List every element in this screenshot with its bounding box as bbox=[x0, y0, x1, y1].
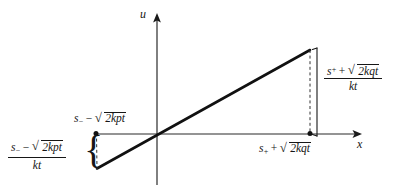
left-point-radical: √2kpt bbox=[95, 112, 126, 125]
left-fraction-radicand: 2kpt bbox=[41, 140, 63, 153]
left-point-expression: s−−√2kpt bbox=[74, 112, 126, 126]
right-fraction-label: s++√2kqt kt bbox=[324, 64, 382, 93]
left-point-label: s−−√2kpt bbox=[74, 110, 126, 126]
left-point-s-subscript: − bbox=[79, 117, 84, 126]
right-point-radical: √2kqt bbox=[280, 142, 311, 155]
right-fraction-numerator: s++√2kqt bbox=[324, 64, 382, 79]
graph-figure: u x { s−−√2kpt s−−√2kpt kt s++√2kqt s++√… bbox=[0, 0, 409, 191]
left-fraction: s−−√2kpt kt bbox=[8, 140, 66, 171]
right-measure-bracket bbox=[313, 48, 318, 136]
radical-sign-icon: √ bbox=[95, 111, 102, 124]
right-fraction-radicand: 2kqt bbox=[357, 64, 379, 77]
radical-sign-icon: √ bbox=[280, 141, 287, 154]
left-fraction-radical: √2kpt bbox=[32, 140, 63, 153]
right-point-marker bbox=[308, 131, 313, 136]
y-axis bbox=[153, 13, 161, 185]
left-point-operator: − bbox=[86, 112, 93, 124]
x-axis-label: x bbox=[357, 138, 362, 150]
y-axis-label: u bbox=[140, 8, 146, 20]
right-point-s: s bbox=[259, 142, 263, 154]
radical-sign-icon: √ bbox=[32, 139, 39, 152]
left-fraction-s: s bbox=[11, 141, 15, 153]
x-axis bbox=[96, 130, 362, 138]
left-fraction-operator: − bbox=[23, 141, 30, 153]
left-fraction-s-subscript: − bbox=[16, 146, 21, 155]
right-fraction-denominator: kt bbox=[324, 79, 382, 92]
right-point-s-subscript: + bbox=[264, 147, 269, 156]
left-point-radicand: 2kpt bbox=[104, 112, 126, 125]
right-fraction-s-superscript: + bbox=[332, 65, 337, 74]
right-fraction-operator: + bbox=[339, 65, 346, 77]
left-fraction-numerator: s−−√2kpt bbox=[8, 140, 66, 158]
radical-sign-icon: √ bbox=[348, 63, 355, 76]
right-fraction-radical: √2kqt bbox=[348, 64, 379, 77]
right-fraction: s++√2kqt kt bbox=[324, 64, 382, 93]
right-point-radicand: 2kqt bbox=[289, 142, 311, 155]
left-point-s: s bbox=[74, 112, 78, 124]
left-fraction-label: s−−√2kpt kt bbox=[8, 140, 66, 171]
right-point-expression: s++√2kqt bbox=[259, 142, 311, 156]
right-point-operator: + bbox=[271, 142, 278, 154]
left-fraction-denominator: kt bbox=[8, 158, 66, 171]
left-measure-brace: { bbox=[84, 130, 103, 170]
right-point-label: s++√2kqt bbox=[259, 140, 311, 156]
right-fraction-s: s bbox=[327, 65, 331, 77]
